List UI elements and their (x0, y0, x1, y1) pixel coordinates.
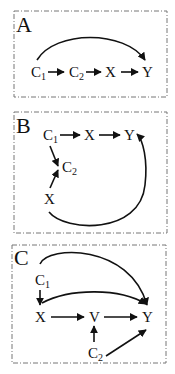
node-c1: C1 (31, 64, 46, 82)
causal-diagram: A C1 C2 X Y B C1 X Y C2 X C C1 X V Y C2 (0, 0, 175, 374)
panel-b: B C1 X Y C2 X (14, 112, 167, 233)
node-x: X (35, 309, 46, 325)
panel-c-label: C (14, 245, 29, 270)
edge-c1-c2 (50, 146, 58, 166)
node-x-bottom: X (44, 191, 55, 207)
node-c2: C2 (88, 345, 103, 363)
node-y: Y (142, 64, 153, 80)
node-v: V (89, 309, 100, 325)
edge-c1-y-curved (37, 38, 145, 61)
panel-a-label: A (16, 12, 32, 37)
node-c1: C1 (35, 272, 50, 290)
node-c2: C2 (62, 159, 77, 177)
node-y: Y (124, 127, 135, 143)
edge-xbottom-c2 (50, 170, 58, 188)
node-x-top: X (84, 127, 95, 143)
node-c1: C1 (43, 127, 58, 145)
panel-a-border (14, 11, 167, 97)
node-c2: C2 (69, 64, 84, 82)
node-y: Y (142, 309, 153, 325)
panel-b-label: B (16, 113, 31, 138)
edge-c2-y (106, 330, 146, 356)
panel-c: C C1 X V Y C2 (12, 245, 166, 363)
edge-x-y-curved (42, 292, 146, 304)
edge-xbottom-y-curved (49, 134, 146, 226)
panel-a: A C1 C2 X Y (14, 11, 167, 97)
node-x: X (105, 64, 116, 80)
